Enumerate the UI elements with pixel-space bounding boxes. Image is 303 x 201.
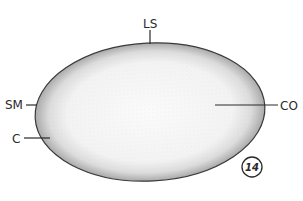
cell-body bbox=[32, 37, 269, 187]
label-co: CO bbox=[280, 99, 298, 113]
figure-number-badge: 14 bbox=[242, 157, 262, 177]
label-ls: LS bbox=[143, 17, 157, 31]
diagram-canvas: LS SM C CO 14 bbox=[0, 0, 303, 201]
figure-number: 14 bbox=[245, 162, 259, 173]
label-sm: SM bbox=[5, 98, 23, 112]
label-c: C bbox=[12, 132, 20, 146]
